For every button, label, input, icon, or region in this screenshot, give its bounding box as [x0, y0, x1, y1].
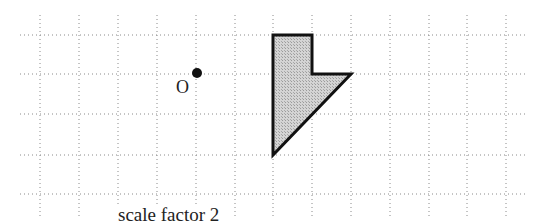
- enlargement-diagram: O scale factor 2: [0, 0, 542, 223]
- centre-label: O: [176, 77, 189, 97]
- centre-of-enlargement-point: [192, 68, 202, 78]
- shaded-shape: [273, 35, 351, 155]
- scale-factor-caption: scale factor 2: [118, 204, 219, 223]
